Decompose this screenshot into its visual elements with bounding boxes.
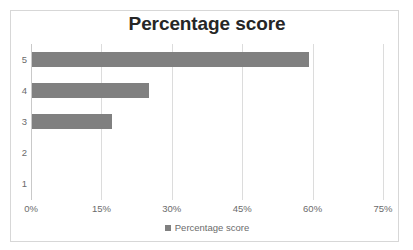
bar-3[interactable]	[32, 114, 112, 129]
bar-5[interactable]	[32, 52, 309, 67]
legend-swatch-icon	[165, 225, 171, 231]
category-label-4: 4	[14, 86, 27, 96]
value-label-15: 15%	[92, 203, 111, 215]
category-label-5: 5	[14, 55, 27, 65]
bar-band	[31, 44, 383, 75]
bar-band	[31, 106, 383, 137]
bar-band	[31, 169, 383, 200]
value-label-45: 45%	[233, 203, 252, 215]
chart-legend: Percentage score	[31, 222, 383, 233]
category-label-1: 1	[14, 179, 27, 189]
chart-container: Percentage score 54321 0%15%30%45%60%75%…	[0, 0, 413, 250]
value-label-30: 30%	[162, 203, 181, 215]
value-label-0: 0%	[24, 203, 38, 215]
value-label-60: 60%	[303, 203, 322, 215]
value-label-75: 75%	[373, 203, 392, 215]
plot-area	[31, 44, 383, 200]
category-axis-labels: 54321	[14, 44, 27, 200]
category-label-3: 3	[14, 117, 27, 127]
bar-band	[31, 75, 383, 106]
category-label-2: 2	[14, 148, 27, 158]
legend-label: Percentage score	[175, 222, 249, 233]
bar-4[interactable]	[32, 83, 149, 98]
value-axis-labels: 0%15%30%45%60%75%	[31, 203, 383, 217]
chart-title: Percentage score	[31, 13, 383, 35]
gridline-75	[383, 44, 384, 200]
bar-band	[31, 138, 383, 169]
